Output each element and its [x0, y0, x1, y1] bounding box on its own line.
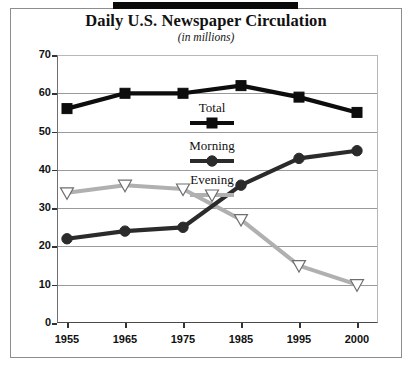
y-axis-tick-mark	[52, 323, 57, 325]
x-axis-tick-mark	[357, 323, 359, 328]
y-axis-tick-label: 40	[21, 163, 51, 175]
y-axis-tick-label: 60	[21, 86, 51, 98]
x-axis-tick-label: 1975	[153, 333, 213, 345]
legend-triangle-marker	[182, 188, 242, 202]
x-axis-tick-mark	[67, 323, 69, 328]
chart-subtitle: (in millions)	[0, 31, 412, 43]
x-axis-tick-label: 1995	[269, 333, 329, 345]
y-axis-tick-mark	[52, 93, 57, 95]
y-axis-tick-label: 50	[21, 125, 51, 137]
x-axis-tick-label: 1985	[211, 333, 271, 345]
top-rule-decoration	[113, 2, 298, 9]
y-axis-tick-label: 70	[21, 48, 51, 60]
x-axis-tick-label: 1955	[37, 333, 97, 345]
legend-square-marker	[182, 116, 242, 130]
x-axis-tick-label: 1965	[95, 333, 155, 345]
y-axis-tick-label: 10	[21, 278, 51, 290]
y-axis-tick-mark	[52, 55, 57, 57]
y-axis-tick-label: 20	[21, 239, 51, 251]
chart-title: Daily U.S. Newspaper Circulation	[0, 11, 412, 31]
legend-label-morning: Morning	[152, 138, 272, 154]
chart-figure: Daily U.S. Newspaper Circulation (in mil…	[0, 0, 412, 373]
y-axis-tick-label: 0	[21, 316, 51, 328]
y-axis-tick-mark	[52, 170, 57, 172]
legend-label-total: Total	[152, 100, 272, 116]
x-axis-tick-mark	[125, 323, 127, 328]
x-axis-tick-label: 2000	[327, 333, 387, 345]
y-axis-tick-label: 30	[21, 201, 51, 213]
legend-label-evening: Evening	[152, 172, 272, 188]
legend-circle-marker	[182, 154, 242, 168]
y-axis-tick-mark	[52, 285, 57, 287]
x-axis-tick-mark	[241, 323, 243, 328]
y-axis-tick-mark	[52, 208, 57, 210]
x-axis-tick-mark	[183, 323, 185, 328]
y-axis-tick-mark	[52, 246, 57, 248]
x-axis-tick-mark	[299, 323, 301, 328]
y-axis-tick-mark	[52, 132, 57, 134]
